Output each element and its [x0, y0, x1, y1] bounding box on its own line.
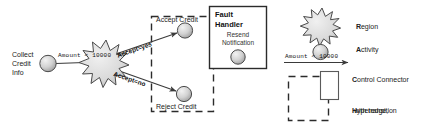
activity-collect-credit-info[interactable] — [40, 55, 56, 71]
label-collect-credit-info-line2: Credit — [12, 60, 42, 68]
legend-region-rest: egion — [361, 23, 378, 30]
legend-hyperedge-line1: Hyperedge, — [352, 106, 424, 116]
label-resend-line2: Notification — [210, 39, 266, 47]
legend-hyperedge-rest: yperedge, — [357, 107, 388, 114]
legend-handler-box-icon — [321, 72, 339, 100]
label-amount-condition: Amount < 10000 — [58, 53, 111, 60]
legend-item-region-label: Region — [352, 12, 378, 32]
legend-region-star-icon — [300, 8, 340, 46]
label-collect-credit-info-line1: Collect — [12, 51, 42, 59]
label-resend-line1: Resend — [210, 31, 266, 39]
fault-handler-title-line2: Handler — [215, 20, 243, 29]
label-accept-credit: Accept Credit — [156, 16, 198, 24]
label-collect-credit-info-line3: Info — [12, 69, 42, 77]
label-reject-credit: Reject Credit — [156, 103, 196, 111]
region-decision-star[interactable] — [79, 40, 129, 88]
legend-activity-rest: ctivity — [361, 46, 379, 53]
legend-item-activity-label: Activity — [352, 35, 378, 55]
activity-accept-credit[interactable] — [177, 23, 192, 38]
legend-connector-line1: Control Connector — [352, 75, 424, 85]
activity-resend-notification[interactable] — [231, 50, 245, 64]
legend-item-hyperedge-label: Hyperedge, with annotated Handler — [352, 86, 424, 132]
activity-reject-credit[interactable] — [176, 86, 191, 101]
legend-connector-symbol-label: Amount < 10000 — [285, 54, 338, 61]
legend-connector-rest: ontrol Connector — [357, 76, 409, 83]
fault-handler-title-line1: Fault — [215, 10, 233, 19]
